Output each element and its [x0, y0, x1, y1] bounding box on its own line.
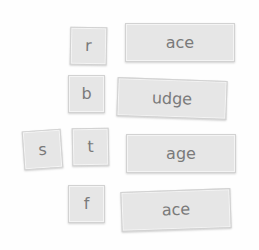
letter-tile-t[interactable]: t	[72, 128, 110, 167]
letter-tile-r[interactable]: r	[70, 27, 108, 66]
ending-tile-age[interactable]: age	[126, 134, 236, 173]
ending-tile-udge[interactable]: udge	[116, 77, 227, 120]
tile-label: t	[87, 139, 94, 155]
tile-label: s	[38, 141, 47, 158]
letter-tile-s[interactable]: s	[22, 129, 64, 171]
tile-label: r	[85, 38, 92, 54]
game-board: r ace b udge s t age f ace	[0, 0, 259, 250]
letter-tile-f[interactable]: f	[68, 185, 105, 223]
ending-tile-ace[interactable]: ace	[125, 23, 235, 62]
tile-label: f	[84, 196, 90, 212]
tile-label: udge	[152, 90, 193, 107]
letter-tile-b[interactable]: b	[68, 75, 105, 113]
ending-tile-ace-2[interactable]: ace	[120, 188, 231, 232]
tile-label: ace	[166, 35, 194, 51]
tile-label: b	[81, 86, 91, 102]
tile-label: ace	[161, 202, 190, 219]
tile-label: age	[166, 146, 196, 162]
